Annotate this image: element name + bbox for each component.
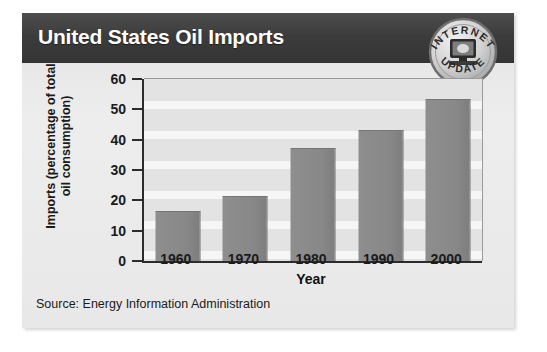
bar-series — [144, 79, 482, 261]
y-axis-label: Imports (percentage of total oil consump… — [44, 46, 74, 246]
bar-slot — [414, 79, 482, 261]
y-axis-tick-mark — [132, 78, 142, 80]
y-axis-tick-mark — [132, 139, 142, 141]
x-axis-label: Year — [142, 271, 480, 287]
y-axis-tick-label: 10 — [110, 223, 126, 239]
y-axis-tick-label: 40 — [110, 132, 126, 148]
page-title: United States Oil Imports — [38, 25, 284, 49]
y-axis-tick-label: 30 — [110, 162, 126, 178]
x-axis-tick-label: 1960 — [160, 251, 191, 267]
y-axis-tick-label: 0 — [118, 253, 126, 269]
x-axis-tick-label: 1970 — [228, 251, 259, 267]
y-axis-tick-label: 60 — [110, 71, 126, 87]
y-axis-label-line1: Imports (percentage of total — [44, 46, 59, 246]
bar-slot — [279, 79, 347, 261]
bar-2000[interactable] — [426, 99, 471, 261]
y-axis-tick-label: 50 — [110, 101, 126, 117]
y-axis-tick-mark — [132, 260, 142, 262]
bar-1980[interactable] — [290, 148, 335, 261]
bar-slot — [144, 79, 212, 261]
y-axis-tick-label: 20 — [110, 192, 126, 208]
bar-slot — [347, 79, 415, 261]
bar-1990[interactable] — [358, 130, 403, 261]
y-axis-tick-mark — [132, 230, 142, 232]
y-axis-tick-mark — [132, 108, 142, 110]
y-axis-label-line2: oil consumption) — [59, 46, 74, 246]
bar-slot — [212, 79, 280, 261]
x-axis-tick-label: 1990 — [363, 251, 394, 267]
x-axis-tick-label: 1980 — [295, 251, 326, 267]
plot-area — [142, 79, 482, 263]
source-note: Source: Energy Information Administratio… — [36, 297, 270, 311]
y-axis-tick-mark — [132, 199, 142, 201]
plot-right-border — [482, 78, 483, 261]
chart-region: Imports (percentage of total oil consump… — [22, 63, 514, 328]
screenshot-root: United States Oil Imports — [0, 0, 547, 352]
x-axis-tick-label: 2000 — [431, 251, 462, 267]
y-axis-tick-mark — [132, 169, 142, 171]
chart-card: United States Oil Imports — [22, 13, 514, 328]
